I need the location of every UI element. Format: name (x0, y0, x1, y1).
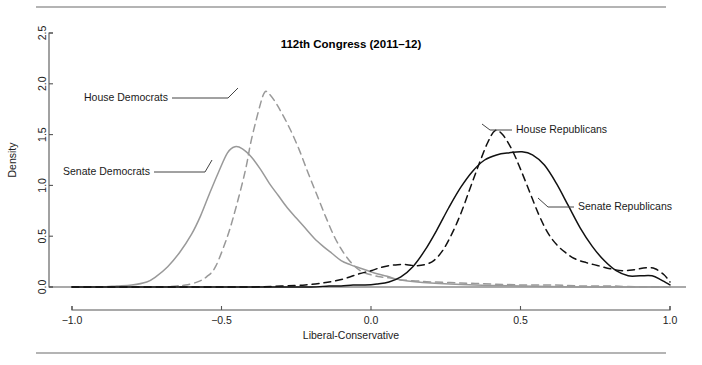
series-label: Senate Republicans (578, 200, 672, 212)
y-tick-label: 0.0 (36, 280, 48, 295)
x-tick-label: 1.0 (663, 314, 678, 326)
y-tick-label: 1.0 (36, 178, 48, 193)
x-tick-label: 0.0 (364, 314, 379, 326)
bottom-divider (36, 352, 666, 354)
annotation-group: House DemocratsSenate DemocratsHouse Rep… (63, 88, 672, 212)
series-leader-line (172, 88, 238, 98)
y-axis-title: Density (6, 142, 18, 178)
y-axis-line (49, 33, 53, 287)
series-label: House Democrats (84, 91, 168, 103)
x-tick-group: −1.0−0.50.00.51.0 (62, 306, 678, 326)
y-tick-label: 2.0 (36, 76, 48, 91)
series-label: House Republicans (516, 123, 607, 135)
x-tick-label: −1.0 (62, 314, 83, 326)
series-leader-line (482, 124, 512, 130)
y-axis: 0.00.51.01.52.02.5 Density (6, 26, 53, 295)
x-axis-title: Liberal-Conservative (303, 329, 399, 341)
series-group (72, 91, 670, 287)
figure-container: 0.00.51.01.52.02.5 Density −1.0−0.50.00.… (0, 0, 702, 365)
y-tick-label: 2.5 (36, 26, 48, 41)
x-tick-label: 0.5 (513, 314, 528, 326)
y-tick-label: 1.5 (36, 127, 48, 142)
series-label: Senate Democrats (63, 165, 150, 177)
density-curve (87, 91, 670, 287)
x-axis: −1.0−0.50.00.51.0 Liberal-Conservative (49, 287, 686, 341)
y-tick-label: 0.5 (36, 229, 48, 244)
series-leader-line (154, 160, 212, 172)
density-plot: 0.00.51.01.52.02.5 Density −1.0−0.50.00.… (0, 0, 702, 365)
density-curve (72, 147, 670, 287)
x-tick-label: −0.5 (211, 314, 232, 326)
y-tick-group: 0.00.51.01.52.02.5 (36, 26, 53, 295)
top-divider (36, 6, 666, 8)
chart-title: 112th Congress (2011–12) (281, 38, 422, 50)
